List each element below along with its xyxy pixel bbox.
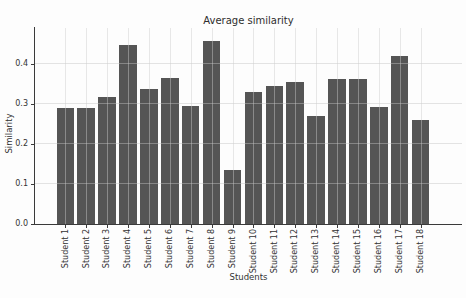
bar <box>328 79 346 224</box>
x-tick-label: Student 4 <box>124 229 133 268</box>
x-tick-label: Student 9 <box>228 229 237 268</box>
x-tick-mark <box>212 225 213 228</box>
x-tick-mark <box>358 225 359 228</box>
x-tick-mark <box>253 225 254 228</box>
x-axis-spine <box>34 224 462 225</box>
y-tick-mark <box>31 224 34 225</box>
bar <box>161 78 179 224</box>
bar <box>77 108 95 224</box>
bar <box>245 92 263 224</box>
x-tick-label: Student 8 <box>207 229 216 268</box>
x-tick-mark <box>421 225 422 228</box>
x-tick-mark <box>170 225 171 228</box>
x-tick-mark <box>337 225 338 228</box>
y-tick-mark <box>31 104 34 105</box>
x-tick-mark <box>65 225 66 228</box>
x-tick-mark <box>295 225 296 228</box>
bar <box>266 86 284 224</box>
y-tick-mark <box>31 64 34 65</box>
x-tick-mark <box>86 225 87 228</box>
bar <box>57 108 75 224</box>
x-axis-label: Students <box>35 272 462 282</box>
bar <box>412 120 430 224</box>
bar-chart-figure: Average similarity 0.00.10.20.30.4 Stude… <box>0 0 466 298</box>
bar <box>370 107 388 224</box>
x-tick-mark <box>400 225 401 228</box>
x-tick-label: Student 7 <box>186 229 195 268</box>
x-tick-mark <box>149 225 150 228</box>
y-tick-label: 0.0 <box>0 219 28 229</box>
bar <box>182 106 200 224</box>
bar <box>119 45 137 224</box>
chart-title: Average similarity <box>35 15 462 26</box>
y-tick-mark <box>31 184 34 185</box>
x-tick-mark <box>379 225 380 228</box>
y-tick-label: 0.1 <box>0 179 28 189</box>
x-tick-label: Student 3 <box>103 229 112 268</box>
x-tick-label: Student 18 <box>416 229 425 273</box>
x-tick-mark <box>191 225 192 228</box>
y-axis-label: Similarity <box>4 94 15 174</box>
x-tick-label: Student 2 <box>82 229 91 268</box>
bar <box>98 97 116 224</box>
plot-area <box>35 28 462 224</box>
x-tick-label: Student 14 <box>333 229 342 273</box>
bar <box>391 56 409 224</box>
x-tick-mark <box>316 225 317 228</box>
y-tick-mark <box>31 144 34 145</box>
x-tick-mark <box>107 225 108 228</box>
x-tick-label: Student 11 <box>270 229 279 273</box>
bar <box>203 41 221 224</box>
x-tick-label: Student 12 <box>291 229 300 273</box>
bar <box>307 116 325 224</box>
y-tick-label: 0.4 <box>0 59 28 69</box>
x-tick-label: Student 10 <box>249 229 258 273</box>
bar <box>286 82 304 224</box>
x-tick-mark <box>128 225 129 228</box>
x-tick-label: Student 13 <box>312 229 321 273</box>
x-tick-mark <box>274 225 275 228</box>
x-tick-mark <box>233 225 234 228</box>
x-tick-label: Student 16 <box>374 229 383 273</box>
x-tick-label: Student 6 <box>165 229 174 268</box>
bar <box>349 79 367 224</box>
x-tick-label: Student 15 <box>353 229 362 273</box>
bar <box>140 89 158 224</box>
x-tick-label: Student 17 <box>395 229 404 273</box>
x-tick-label: Student 5 <box>144 229 153 268</box>
x-tick-label: Student 1 <box>61 229 70 268</box>
bar <box>224 170 242 224</box>
